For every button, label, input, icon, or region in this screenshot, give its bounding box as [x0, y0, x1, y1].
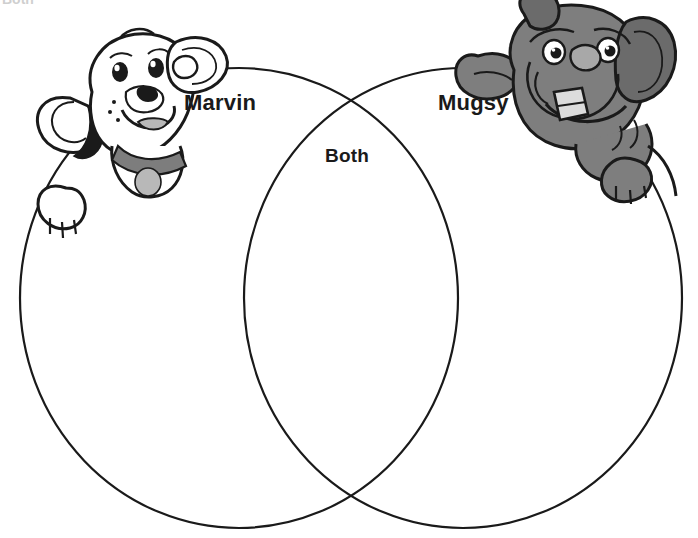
marvin-collar-tag — [135, 168, 161, 196]
marvin-right-eye — [148, 58, 164, 78]
mugsy-nose — [570, 45, 600, 70]
venn-label-right[interactable]: Mugsy — [438, 90, 509, 116]
venn-diagram-worksheet: Both — [0, 0, 698, 538]
mugsy-right-ear — [615, 18, 675, 102]
marvin-freckle-2 — [108, 110, 112, 114]
mugsy-left-eye-highlight — [552, 48, 556, 52]
marvin-small-paw — [173, 56, 197, 78]
mugsy-right-paw — [601, 158, 651, 202]
marvin-left-eye — [112, 62, 128, 82]
venn-diagram-canvas — [0, 0, 698, 538]
marvin-right-eye-highlight — [150, 61, 155, 67]
mugsy-right-eye-highlight — [606, 46, 610, 50]
marvin-left-eye-highlight — [114, 65, 119, 71]
marvin-freckle-1 — [112, 100, 116, 104]
marvin-freckle-3 — [116, 118, 120, 122]
venn-label-overlap[interactable]: Both — [325, 145, 369, 167]
dog-marvin-illustration — [38, 29, 228, 238]
venn-label-left[interactable]: Marvin — [184, 90, 256, 116]
